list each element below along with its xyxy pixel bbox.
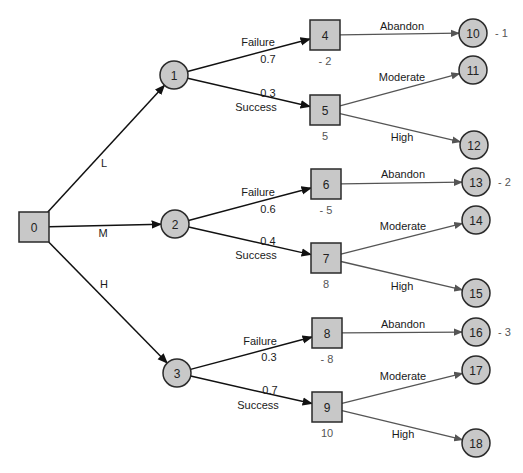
decision-node-6: 6- 5 [311, 169, 341, 216]
terminal-node-14: 14 [462, 206, 490, 234]
edge-label: High [391, 131, 414, 143]
node-label: 11 [467, 64, 480, 78]
node-label: 13 [469, 176, 483, 190]
node-label: 3 [174, 367, 181, 381]
terminal-node-17: 17 [462, 356, 490, 384]
edge-label: Success [235, 249, 277, 261]
edge-label: 0.7 [260, 53, 275, 65]
edge-label: L [101, 157, 107, 169]
edge-label: Moderate [380, 370, 426, 382]
node-label: 15 [469, 287, 483, 301]
terminal-node-16: 16- 3 [462, 318, 511, 346]
terminal-node-11: 11 [459, 56, 487, 84]
node-label: 18 [469, 437, 483, 451]
edge-8-to-16 [342, 332, 462, 333]
node-label: 2 [172, 218, 179, 232]
node-value: - 5 [320, 204, 333, 216]
edge-label: Success [237, 399, 279, 411]
decision-node-0: 0 [19, 212, 49, 242]
edge-label: 0.6 [260, 203, 275, 215]
edge-label: Abandon [381, 168, 425, 180]
node-label: 7 [323, 252, 330, 266]
node-label: 10 [466, 27, 480, 41]
edge-label: Failure [241, 36, 275, 48]
edge-label: Failure [243, 335, 277, 347]
node-label: 0 [31, 221, 38, 235]
decision-tree-diagram: LMHFailure0.70.3SuccessFailure0.60.4Succ… [0, 0, 523, 473]
edge-label: Success [235, 101, 277, 113]
terminal-node-13: 13- 2 [462, 168, 511, 196]
node-value: - 2 [498, 176, 511, 188]
node-label: 4 [322, 29, 329, 43]
edge-label: M [98, 227, 107, 239]
node-label: 14 [469, 214, 483, 228]
node-value: 8 [323, 278, 329, 290]
edge-label: Moderate [379, 71, 425, 83]
edge-0-to-1 [48, 85, 165, 212]
edge-6-to-13 [341, 182, 462, 184]
chance-node-1: 1 [160, 61, 188, 89]
edge-label: High [391, 280, 414, 292]
edge-label: 0.3 [260, 87, 275, 99]
edge-label: H [100, 278, 108, 290]
decision-node-5: 55 [310, 95, 340, 142]
node-value: 5 [322, 130, 328, 142]
node-label: 17 [469, 364, 483, 378]
decision-node-7: 78 [311, 243, 341, 290]
chance-node-3: 3 [163, 359, 191, 387]
terminal-node-15: 15 [462, 279, 490, 307]
node-value: - 1 [495, 27, 508, 39]
node-label: 16 [469, 326, 483, 340]
node-value: - 2 [319, 55, 332, 67]
terminal-node-12: 12 [460, 131, 488, 159]
terminal-node-10: 10- 1 [459, 19, 508, 47]
edge-label: Failure [241, 186, 275, 198]
node-label: 6 [323, 178, 330, 192]
decision-node-4: 4- 2 [310, 20, 340, 67]
node-label: 5 [322, 104, 329, 118]
terminal-node-18: 18 [462, 429, 490, 457]
edge-label: Abandon [381, 318, 425, 330]
edge-labels-layer: LMHFailure0.70.3SuccessFailure0.60.4Succ… [98, 20, 426, 440]
node-label: 1 [171, 69, 178, 83]
edge-label: 0.4 [260, 235, 275, 247]
node-value: 10 [321, 427, 333, 439]
node-value: - 8 [321, 353, 334, 365]
edge-label: Moderate [380, 220, 426, 232]
edge-label: 0.7 [262, 384, 277, 396]
edge-label: High [392, 428, 415, 440]
edge-label: 0.3 [261, 351, 276, 363]
node-value: - 3 [498, 326, 511, 338]
edge-label: Abandon [380, 20, 424, 32]
node-label: 8 [324, 327, 331, 341]
decision-node-8: 8- 8 [312, 318, 342, 365]
edge-4-to-10 [340, 33, 459, 35]
chance-node-2: 2 [161, 210, 189, 238]
node-label: 9 [324, 401, 331, 415]
node-label: 12 [467, 139, 481, 153]
edge-0-to-3 [49, 242, 168, 363]
decision-node-9: 910 [312, 392, 342, 439]
